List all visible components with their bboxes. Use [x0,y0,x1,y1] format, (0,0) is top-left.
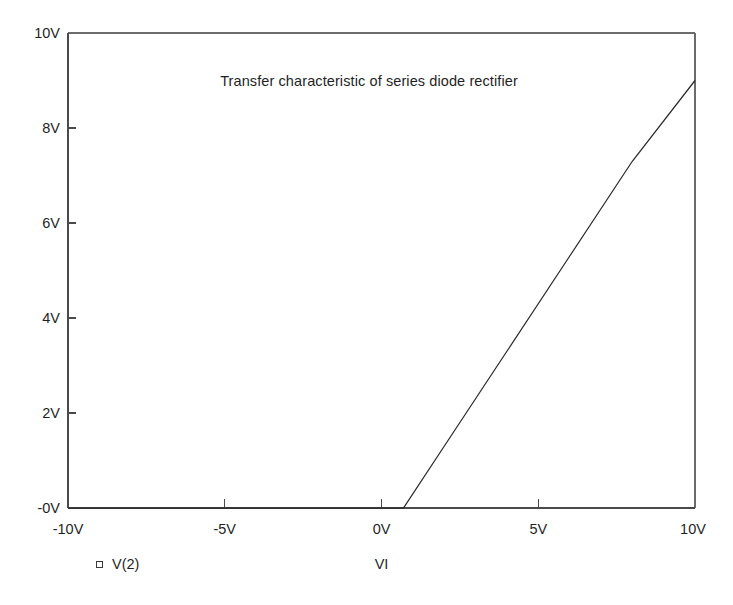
plot-frame [68,33,695,508]
y-axis-ticks [68,128,76,413]
x-axis-ticks [225,499,539,508]
xtick-label-neg5v: -5V [213,522,236,537]
ytick-label-0v: -0V [8,501,60,516]
open-square-marker-icon [96,561,103,568]
ytick-label-10v: 10V [8,26,60,41]
ytick-label-6v: 6V [8,216,60,231]
series-v2-curve [68,81,695,509]
legend[interactable]: V(2) [96,557,139,572]
legend-label-v2: V(2) [112,557,139,572]
xtick-label-neg10v: -10V [53,522,84,537]
ytick-label-2v: 2V [8,406,60,421]
xtick-label-5v: 5V [529,522,547,537]
xtick-label-10v: 10V [680,522,706,537]
x-axis-title: VI [375,557,389,572]
plot-canvas [0,0,733,605]
chart-title: Transfer characteristic of series diode … [220,74,518,89]
xtick-label-0v: 0V [373,522,391,537]
chart-figure: 10V 8V 6V 4V 2V -0V -10V -5V 0V 5V 10V T… [0,0,733,605]
ytick-label-8v: 8V [8,121,60,136]
ytick-label-4v: 4V [8,311,60,326]
